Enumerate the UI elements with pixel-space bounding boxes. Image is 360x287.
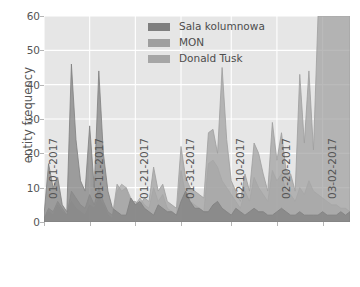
x-tick-label: 02-20-2017 <box>281 138 292 228</box>
x-tick-label: 01-11-2017 <box>94 138 105 228</box>
x-tick-mark <box>90 222 91 226</box>
x-tick-label: 01-21-2017 <box>139 138 150 228</box>
x-tick-label: 03-02-2017 <box>327 138 338 228</box>
x-tick-label: 01-01-2017 <box>48 138 59 228</box>
legend-item[interactable]: Sala kolumnowa <box>148 19 268 34</box>
x-tick-mark <box>135 222 136 226</box>
x-tick-label: 01-31-2017 <box>185 138 196 228</box>
legend-item[interactable]: MON <box>148 35 268 50</box>
legend-label: MON <box>179 37 204 48</box>
x-tick-label: 02-10-2017 <box>235 138 246 228</box>
x-tick-mark <box>277 222 278 226</box>
x-tick-mark <box>323 222 324 226</box>
legend-swatch <box>148 55 170 63</box>
legend-swatch <box>148 39 170 47</box>
legend-label: Sala kolumnowa <box>179 21 265 32</box>
legend-label: Donald Tusk <box>179 53 243 64</box>
legend-swatch <box>148 23 170 31</box>
x-tick-mark <box>181 222 182 226</box>
x-tick-mark <box>44 222 45 226</box>
chart-figure: entity frequency 0102030405060 01-01-201… <box>0 0 360 287</box>
legend-item[interactable]: Donald Tusk <box>148 51 268 66</box>
chart-legend: Sala kolumnowaMONDonald Tusk <box>148 19 268 67</box>
x-tick-mark <box>231 222 232 226</box>
